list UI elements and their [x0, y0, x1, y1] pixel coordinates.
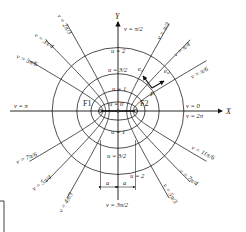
- v-curve-hyperbola: [67, 24, 109, 111]
- dim-label-left: a: [106, 179, 109, 186]
- v-label-7pi-4: v = 7π/4: [178, 167, 200, 187]
- v-label-5pi-6: v = 5π/6: [16, 52, 40, 67]
- v-label-2pi-3: v = 2π/3: [56, 13, 74, 36]
- focus-f1-label: F1: [83, 99, 91, 108]
- v-label-pi-6: v = π/6: [189, 65, 210, 80]
- point-p-label: P: [149, 90, 154, 97]
- v-label-pi-2: v = π/2: [124, 25, 144, 32]
- u-label-0: u = 0: [109, 100, 124, 107]
- v-label-3pi-4: v = 3π/4: [33, 31, 56, 50]
- v-label-5pi-3: v = 5π/3: [162, 182, 179, 205]
- x-axis-label: X: [225, 107, 232, 116]
- v-label-11pi-6: v = 11π/6: [191, 144, 217, 162]
- v-label-5pi-4: v = 5π/4: [30, 173, 53, 192]
- v-label-7pi-6: v = 7π/6: [15, 150, 39, 165]
- v-label-2pi: v = 2π: [186, 112, 204, 119]
- u-label-3-2-lower: u = 3/2: [107, 152, 127, 159]
- u-label-2: u = 2: [111, 47, 126, 54]
- v-label-4pi-3: v = 4π/3: [57, 190, 74, 213]
- y-axis-label: Y: [115, 12, 121, 21]
- elliptic-coordinates-diagram: X Y F1 F2 u = 0 u = 1 u = 3/2 u = 2 u = …: [0, 0, 246, 232]
- partial-frame: [0, 201, 4, 232]
- u-label-1-lower: u = 1: [111, 128, 125, 135]
- e-v-label: ev: [138, 65, 144, 73]
- v-curve-hyperbola: [67, 111, 109, 198]
- v-label-pi: v = π: [14, 102, 29, 109]
- v-label-pi-3: v = π/3: [155, 20, 171, 40]
- u-label-2-lower: u = 2: [130, 172, 145, 179]
- v-label-pi-4: v = π/4: [172, 40, 192, 58]
- focus-f2-label: F2: [140, 99, 148, 108]
- v-label-3pi-2: v = 3π/2: [106, 201, 129, 208]
- u-label-1: u = 1: [112, 85, 126, 92]
- u-label-3-2: u = 3/2: [108, 66, 128, 73]
- v-label-0: v = 0: [186, 102, 201, 109]
- dim-label-right: a: [123, 179, 126, 186]
